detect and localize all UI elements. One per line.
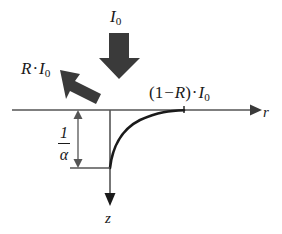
penetration-depth-label: 1 α [52,124,76,164]
fraction: 1 α [58,124,70,164]
incident-beam-label: I0 [110,8,121,27]
depth-dimension-arrowhead-top [74,110,83,119]
one-literal: 1 [155,83,164,102]
absorption-diagram: I0 R·I0 (1−R)·I0 1 α r z [0,0,282,234]
intensity-subscript: 0 [45,67,51,79]
reflectance-symbol: R [21,59,31,78]
multiplication-operator: · [191,83,199,102]
reflected-beam-label: R·I0 [21,60,50,79]
z-axis-label: z [105,211,111,226]
r-axis-label: r [263,105,269,120]
fraction-numerator: 1 [58,124,70,142]
incident-beam-subscript: 0 [116,15,122,27]
fraction-denominator: α [58,145,70,163]
exponential-decay-curve [110,110,184,168]
transmitted-beam-label: (1−R)·I0 [149,84,210,103]
r-axis-arrowhead [250,105,262,116]
fraction-bar [58,143,70,144]
reflectance-symbol: R [175,83,185,102]
z-axis-arrowhead [105,193,116,206]
intensity-subscript: 0 [204,91,210,103]
diagram-canvas [0,0,282,234]
multiplication-operator: · [31,59,39,78]
reflected-beam-arrow [60,70,101,104]
minus-operator: − [163,83,175,102]
close-paren: ) [185,83,191,102]
incident-beam-arrow [99,33,140,79]
